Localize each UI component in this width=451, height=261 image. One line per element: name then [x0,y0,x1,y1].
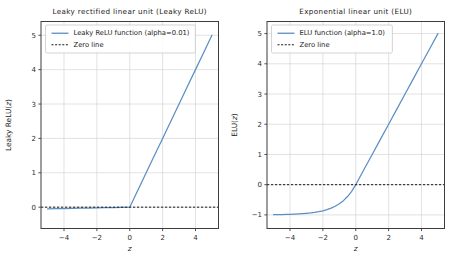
y-axis-label-paren-close: ) [229,113,238,116]
x-axis-label: z [127,244,133,253]
x-tick-label: −4 [284,234,295,242]
y-tick-label: 3 [32,101,36,109]
y-axis: 012345 [32,32,41,212]
plot-svg-left: Leaky rectified linear unit (Leaky ReLU)… [0,0,226,261]
x-axis: −4−2024 [284,229,423,242]
x-tick-label: −4 [59,234,70,242]
chart-title: Exponential linear unit (ELU) [299,7,412,16]
y-tick-label: 1 [257,151,261,159]
y-axis-label: ELU(z) [229,113,238,137]
legend: ELU function (alpha=1.0)Zero line [271,25,392,53]
y-tick-label: 5 [257,30,261,38]
x-tick-label: 4 [419,234,424,242]
legend-label: Zero line [74,41,104,49]
y-tick-label: 4 [257,60,262,68]
chart-panel-leaky-relu: Leaky rectified linear unit (Leaky ReLU)… [0,0,226,261]
legend-label: Zero line [299,41,329,49]
legend-label: ELU function (alpha=1.0) [299,29,385,37]
plot-svg-right: Exponential linear unit (ELU)−4−2024−101… [226,0,451,261]
y-tick-label: 0 [257,181,261,189]
y-tick-label: 2 [257,121,261,129]
chart-title: Leaky rectified linear unit (Leaky ReLU) [52,7,207,16]
y-axis: −1012345 [251,30,266,219]
y-tick-label: 5 [32,32,36,40]
legend-label: Leaky ReLU function (alpha=0.01) [74,29,190,37]
y-tick-label: 2 [32,135,36,143]
x-tick-label: 4 [193,234,198,242]
y-tick-label: 4 [32,66,37,74]
y-axis-label-paren-close: ) [4,99,13,102]
y-tick-label: 3 [257,91,261,99]
figure-canvas: Leaky rectified linear unit (Leaky ReLU)… [0,0,451,261]
x-tick-label: −2 [92,234,102,242]
y-axis-label: Leaky ReLU(z) [4,99,13,151]
x-tick-label: 2 [386,234,390,242]
x-tick-label: −2 [317,234,327,242]
y-tick-label: 1 [32,169,36,177]
x-tick-label: 0 [128,234,132,242]
x-tick-label: 2 [160,234,164,242]
y-tick-label: 0 [32,204,36,212]
y-tick-label: −1 [251,211,261,219]
x-tick-label: 0 [353,234,357,242]
x-axis: −4−2024 [59,229,198,242]
legend: Leaky ReLU function (alpha=0.01)Zero lin… [46,25,196,53]
chart-panel-elu: Exponential linear unit (ELU)−4−2024−101… [226,0,451,261]
x-axis-label: z [352,244,358,253]
